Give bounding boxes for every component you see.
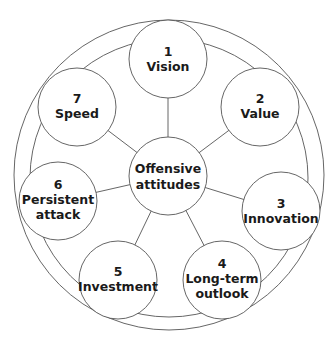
node-value-label: Value — [240, 106, 279, 121]
node-speed-label: Speed — [55, 106, 99, 121]
node-persistent-number: 6 — [54, 177, 63, 192]
node-vision: 1 Vision — [129, 20, 207, 98]
node-persistent-label-2: attack — [36, 207, 81, 222]
node-innovation: 3 Innovation — [242, 172, 320, 250]
node-vision-number: 1 — [164, 44, 173, 59]
node-innovation-label: Innovation — [243, 211, 318, 226]
node-speed: 7 Speed — [38, 68, 116, 146]
node-speed-number: 7 — [73, 91, 82, 106]
center-label-line-2: attitudes — [136, 177, 200, 192]
node-investment-number: 5 — [114, 264, 123, 279]
node-investment-label: Investment — [78, 279, 158, 294]
node-investment: 5 Investment — [78, 241, 158, 319]
node-persistent-attack: 6 Persistent attack — [19, 162, 97, 240]
offensive-attitudes-diagram: Offensive attitudes 1 Vision 2 Value 3 I… — [0, 0, 335, 344]
node-value: 2 Value — [221, 68, 299, 146]
node-innovation-number: 3 — [277, 196, 286, 211]
node-value-number: 2 — [256, 91, 265, 106]
node-long-term-outlook: 4 Long-term outlook — [183, 241, 261, 319]
node-long-term-number: 4 — [218, 256, 227, 271]
node-vision-label: Vision — [147, 59, 190, 74]
node-long-term-label-1: Long-term — [185, 271, 258, 286]
center-label-line-1: Offensive — [135, 161, 201, 176]
node-long-term-label-2: outlook — [195, 286, 249, 301]
center-hub: Offensive attitudes — [129, 137, 207, 215]
node-persistent-label-1: Persistent — [22, 192, 94, 207]
